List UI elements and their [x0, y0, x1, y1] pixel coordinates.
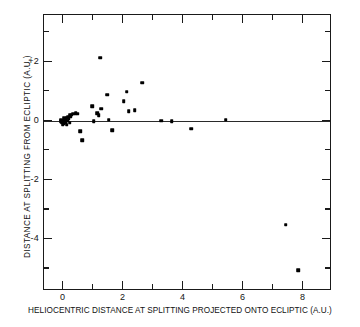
x-axis-tick: [182, 281, 183, 290]
data-point: [80, 139, 84, 143]
x-axis-tick: [182, 14, 183, 23]
x-axis-tick: [92, 284, 93, 290]
data-point: [107, 118, 111, 122]
plot-frame: [43, 14, 331, 290]
data-point: [224, 118, 228, 122]
data-point: [189, 127, 193, 131]
y-axis-tick: [43, 179, 52, 180]
data-point: [122, 100, 126, 104]
data-point: [92, 119, 96, 123]
data-point: [95, 112, 99, 116]
data-point: [110, 128, 114, 132]
data-point: [284, 223, 288, 227]
y-axis-tick: [43, 90, 49, 91]
y-axis-tick: [325, 90, 331, 91]
data-point: [99, 107, 103, 111]
y-axis-tick: [43, 238, 52, 239]
y-axis-tick: [325, 267, 331, 268]
data-point: [133, 108, 137, 112]
data-point: [140, 81, 144, 85]
x-axis-tick: [302, 14, 303, 23]
x-tick-label: 4: [180, 292, 185, 302]
y-tick-label: 0: [34, 115, 39, 125]
scatter-plot-figure: 02468+20-2-4 HELIOCENTRIC DISTANCE AT SP…: [0, 0, 360, 327]
y-axis-tick: [43, 120, 52, 121]
x-axis-tick: [152, 14, 153, 20]
y-axis-tick: [322, 61, 331, 62]
x-tick-label: 8: [300, 292, 305, 302]
data-layer: [44, 15, 330, 289]
x-tick-label: 6: [240, 292, 245, 302]
x-axis-tick: [152, 284, 153, 290]
y-axis-tick: [325, 31, 331, 32]
data-point: [170, 119, 174, 123]
y-axis-tick: [43, 149, 49, 150]
x-tick-label: 0: [60, 292, 65, 302]
data-point: [98, 56, 102, 60]
x-axis-tick: [212, 14, 213, 20]
y-axis-tick: [43, 61, 52, 62]
data-point: [105, 93, 109, 97]
y-axis-tick: [322, 238, 331, 239]
data-point: [76, 112, 80, 116]
x-axis-tick: [122, 281, 123, 290]
data-point: [127, 109, 131, 113]
y-tick-label: -2: [31, 174, 39, 184]
y-axis-tick: [43, 31, 49, 32]
data-point: [78, 129, 82, 133]
data-point: [68, 121, 72, 125]
x-axis-tick: [122, 14, 123, 23]
y-axis-tick: [325, 149, 331, 150]
y-axis-tick: [322, 179, 331, 180]
x-axis-tick: [272, 284, 273, 290]
y-axis-tick: [43, 208, 49, 209]
x-axis-title: HELIOCENTRIC DISTANCE AT SPLITTING PROJE…: [0, 306, 360, 315]
data-point: [296, 269, 300, 273]
zero-reference-line: [44, 121, 330, 122]
y-axis-tick: [322, 120, 331, 121]
data-point: [90, 104, 94, 108]
x-axis-tick: [242, 14, 243, 23]
x-axis-tick: [242, 281, 243, 290]
y-tick-label: -4: [31, 233, 39, 243]
data-point: [159, 119, 163, 123]
x-axis-tick: [272, 14, 273, 20]
x-axis-tick: [62, 14, 63, 23]
x-axis-tick: [62, 281, 63, 290]
x-axis-tick: [302, 281, 303, 290]
y-axis-tick: [325, 208, 331, 209]
y-axis-tick: [43, 267, 49, 268]
x-axis-tick: [212, 284, 213, 290]
x-axis-tick: [92, 14, 93, 20]
y-axis-title: DISTANCE AT SPLITTING FROM ECLIPTIC (A.U…: [23, 47, 32, 267]
data-point: [125, 90, 129, 94]
x-tick-label: 2: [120, 292, 125, 302]
